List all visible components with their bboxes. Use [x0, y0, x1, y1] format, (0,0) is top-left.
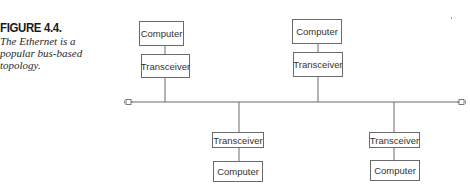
right-terminator-icon — [457, 100, 466, 105]
transceiver-node-bottom-left: Transceiver — [212, 132, 264, 148]
computer-node-top-right: Computer — [292, 19, 342, 44]
computer-node-bottom-left: Computer — [213, 161, 263, 182]
transceiver-node-top-left: Transceiver — [141, 54, 190, 78]
computer-node-bottom-right: Computer — [370, 160, 420, 181]
transceiver-node-top-right: Transceiver — [293, 52, 343, 77]
left-terminator-icon — [125, 100, 134, 105]
transceiver-node-bottom-right: Transceiver — [369, 132, 420, 148]
scan-speck — [451, 17, 452, 19]
computer-node-top-left: Computer — [139, 21, 184, 46]
